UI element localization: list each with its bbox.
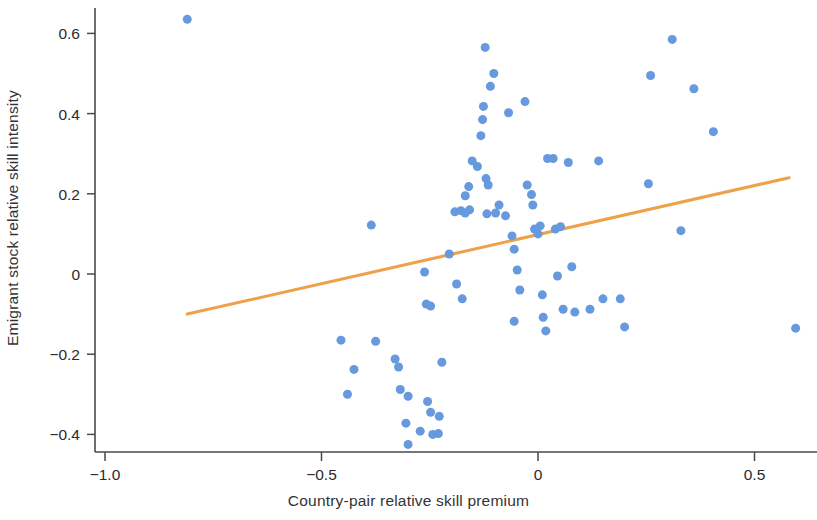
scatter-point xyxy=(458,294,467,303)
scatter-point xyxy=(501,211,510,220)
scatter-point xyxy=(585,305,594,314)
scatter-point xyxy=(616,294,625,303)
scatter-point xyxy=(668,35,677,44)
scatter-point xyxy=(349,365,358,374)
scatter-point xyxy=(343,390,352,399)
scatter-point xyxy=(437,358,446,367)
scatter-point xyxy=(594,156,603,165)
y-tick-label: 0 xyxy=(71,266,80,283)
scatter-point xyxy=(476,131,485,140)
axes xyxy=(95,8,817,452)
scatter-point xyxy=(510,245,519,254)
scatter-point xyxy=(564,158,573,167)
scatter-point xyxy=(676,226,685,235)
x-axis-label: Country-pair relative skill premium xyxy=(0,492,817,510)
axis-tick-labels: −0.4−0.200.20.40.6−1.0−0.500.5 xyxy=(49,25,765,483)
trendline xyxy=(187,178,789,314)
scatter-point xyxy=(420,267,429,276)
scatter-point xyxy=(434,429,443,438)
scatter-point xyxy=(489,69,498,78)
scatter-point xyxy=(404,440,413,449)
scatter-point xyxy=(404,392,413,401)
x-tick-label: −0.5 xyxy=(306,466,337,483)
scatter-point xyxy=(549,154,558,163)
scatter-point xyxy=(486,82,495,91)
scatter-point xyxy=(598,294,607,303)
scatter-point xyxy=(495,201,504,210)
scatter-point xyxy=(464,182,473,191)
scatter-point xyxy=(644,179,653,188)
scatter-point xyxy=(541,326,550,335)
scatter-point xyxy=(553,272,562,281)
scatter-point xyxy=(709,127,718,136)
scatter-point xyxy=(481,43,490,52)
y-tick-label: −0.4 xyxy=(49,426,80,443)
regression-line xyxy=(187,178,789,314)
plot-canvas: −0.4−0.200.20.40.6−1.0−0.500.5 xyxy=(0,0,817,520)
y-axis-label: Emigrant stock relative skill intensity xyxy=(4,0,26,478)
scatter-point xyxy=(416,427,425,436)
scatter-plot-figure: −0.4−0.200.20.40.6−1.0−0.500.5 Country-p… xyxy=(0,0,817,520)
scatter-point xyxy=(510,317,519,326)
scatter-point xyxy=(426,408,435,417)
y-tick-label: 0.2 xyxy=(58,186,80,203)
scatter-point xyxy=(183,15,192,24)
scatter-point xyxy=(570,308,579,317)
scatter-point xyxy=(491,209,500,218)
scatter-point xyxy=(646,71,655,80)
scatter-point xyxy=(465,205,474,214)
scatter-point xyxy=(371,337,380,346)
scatter-point xyxy=(567,262,576,271)
x-tick-label: 0.5 xyxy=(744,466,766,483)
scatter-point xyxy=(336,336,345,345)
scatter-point xyxy=(515,286,524,295)
scatter-point xyxy=(452,280,461,289)
scatter-point xyxy=(482,209,491,218)
scatter-point xyxy=(534,229,543,238)
scatter-point xyxy=(435,412,444,421)
scatter-point xyxy=(484,180,493,189)
scatter-point xyxy=(396,385,405,394)
scatter-point xyxy=(394,363,403,372)
scatter-point xyxy=(521,97,530,106)
scatter-point xyxy=(538,290,547,299)
y-tick-label: −0.2 xyxy=(49,346,80,363)
scatter-point xyxy=(523,180,532,189)
scatter-point xyxy=(791,324,800,333)
scatter-point xyxy=(367,221,376,230)
x-tick-label: 0 xyxy=(534,466,543,483)
scatter-point xyxy=(391,355,400,364)
scatter-point xyxy=(401,419,410,428)
scatter-point xyxy=(479,102,488,111)
scatter-point xyxy=(539,313,548,322)
scatter-point xyxy=(556,222,565,231)
x-tick-label: −1.0 xyxy=(90,466,121,483)
y-tick-label: 0.4 xyxy=(58,106,80,123)
scatter-point xyxy=(559,305,568,314)
scatter-point xyxy=(689,84,698,93)
scatter-point xyxy=(423,397,432,406)
scatter-point xyxy=(426,302,435,311)
scatter-point xyxy=(513,265,522,274)
scatter-points xyxy=(183,15,800,449)
scatter-point xyxy=(504,108,513,117)
y-tick-label: 0.6 xyxy=(58,25,80,42)
scatter-point xyxy=(536,221,545,230)
scatter-point xyxy=(528,201,537,210)
scatter-point xyxy=(445,249,454,258)
scatter-point xyxy=(620,322,629,331)
scatter-point xyxy=(461,191,470,200)
scatter-point xyxy=(508,231,517,240)
scatter-point xyxy=(473,162,482,171)
scatter-point xyxy=(478,115,487,124)
axis-ticks xyxy=(87,33,755,461)
scatter-point xyxy=(527,190,536,199)
